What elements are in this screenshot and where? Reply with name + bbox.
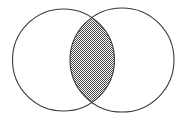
venn-diagram-canvas — [0, 0, 189, 121]
venn-diagram-figure — [0, 0, 189, 121]
